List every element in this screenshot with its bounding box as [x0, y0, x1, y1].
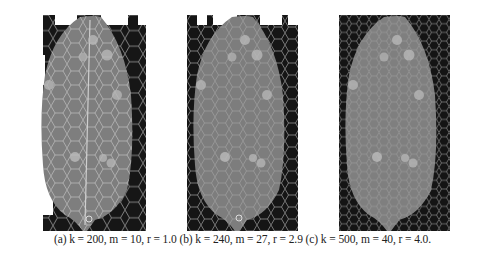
- caption-a: (a) k = 200, m = 10, r = 1.0: [54, 233, 177, 245]
- panel-a-image: [35, 15, 146, 231]
- panel-c-image: [339, 15, 450, 231]
- caption-c: (c) k = 500, m = 40, r = 4.0.: [306, 233, 431, 245]
- panel-b-image: [187, 15, 298, 231]
- caption-b: (b) k = 240, m = 27, r = 2.9: [179, 233, 302, 245]
- figure-caption: (a) k = 200, m = 10, r = 1.0 (b) k = 240…: [0, 233, 485, 245]
